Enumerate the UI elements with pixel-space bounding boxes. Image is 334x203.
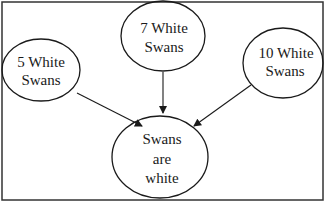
node-obs-7-line-1: 7 White: [140, 20, 188, 36]
node-obs-5-line-2: Swans: [21, 72, 60, 88]
node-conclusion-line-3: white: [145, 170, 179, 186]
node-obs-10-line-2: Swans: [265, 63, 304, 79]
diagram-svg: 5 White Swans 7 White Swans 10 White Swa…: [0, 0, 334, 203]
edge-obs-10-to-conclusion: [194, 85, 251, 126]
node-obs-7-line-2: Swans: [144, 39, 183, 55]
diagram-canvas: 5 White Swans 7 White Swans 10 White Swa…: [0, 0, 334, 203]
node-conclusion: Swans are white: [112, 116, 208, 198]
node-obs-5: 5 White Swans: [2, 39, 80, 101]
node-conclusion-line-1: Swans: [142, 131, 181, 147]
node-obs-10-line-1: 10 White: [258, 45, 313, 61]
node-conclusion-line-2: are: [153, 151, 172, 167]
node-obs-7-ellipse: [121, 1, 205, 71]
node-obs-7: 7 White Swans: [121, 1, 205, 71]
edge-obs-5-to-conclusion: [77, 93, 142, 126]
node-obs-10: 10 White Swans: [243, 28, 323, 98]
node-obs-5-line-1: 5 White: [17, 54, 65, 70]
node-obs-5-ellipse: [2, 39, 80, 101]
